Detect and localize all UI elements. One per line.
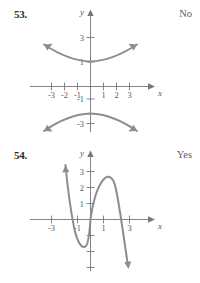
x-tick-label-53-1: -2 xyxy=(61,91,68,100)
x-tick-label-54-2: 1 xyxy=(101,224,105,233)
x-axis-label-53: x xyxy=(157,88,162,98)
x-axis-54 xyxy=(30,216,155,222)
graph-53: -3 -2 -1 1 2 3 3 1 -1 -3 x y xyxy=(22,4,172,140)
y-tick-label-54-2: 1 xyxy=(80,200,84,209)
y-tick-label-54-0: 3 xyxy=(80,168,84,177)
graph-53-svg: -3 -2 -1 1 2 3 3 1 -1 -3 x y xyxy=(22,4,172,140)
x-tick-label-53-0: -3 xyxy=(48,91,55,100)
x-tick-label-54-3: 3 xyxy=(127,224,131,233)
y-axis-label-54: y xyxy=(79,148,84,158)
graph-54: -3 -1 1 3 3 2 1 x y xyxy=(22,145,172,281)
answer-label-54: Yes xyxy=(177,149,192,160)
y-axis-label-53: y xyxy=(79,7,84,17)
x-tick-label-53-3: 1 xyxy=(101,91,105,100)
x-tick-label-54-0: -3 xyxy=(48,224,55,233)
curve-cubic-54 xyxy=(62,165,131,269)
x-axis-53 xyxy=(30,83,155,89)
x-tick-label-53-5: 3 xyxy=(127,91,131,100)
graph-54-svg: -3 -1 1 3 3 2 1 x y xyxy=(22,145,172,281)
problem-block-53: 53. No xyxy=(0,0,200,141)
problem-block-54: 54. Yes xyxy=(0,141,200,283)
x-tick-label-53-4: 2 xyxy=(114,91,118,100)
y-tick-label-54-1: 2 xyxy=(80,184,84,193)
y-tick-label-53-2: -1 xyxy=(77,95,84,104)
answer-label-53: No xyxy=(179,8,192,19)
y-tick-label-53-0: 3 xyxy=(80,34,84,43)
y-tick-label-53-1: 1 xyxy=(80,58,84,67)
x-axis-label-54: x xyxy=(157,221,162,231)
y-tick-label-53-3: -3 xyxy=(77,120,84,129)
